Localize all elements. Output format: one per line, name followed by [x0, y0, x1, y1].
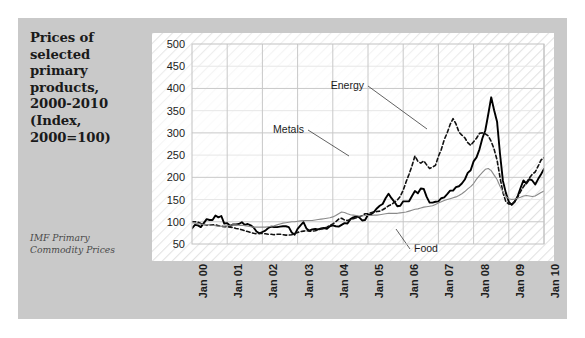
x-tick-label: Jan 03	[303, 264, 315, 298]
x-tick-label: Jan 00	[197, 264, 209, 298]
y-tick-label: 50	[173, 238, 185, 250]
y-tick-label: 100	[167, 216, 185, 228]
series-label-metals: Metals	[273, 123, 304, 135]
y-tick-label: 150	[167, 194, 185, 206]
y-tick-label: 200	[167, 171, 185, 183]
source-note: IMF Primary Commodity Prices	[30, 232, 155, 256]
x-tick-label: Jan 04	[338, 264, 350, 298]
x-axis-labels: Jan 00Jan 01Jan 02Jan 03Jan 04Jan 05Jan …	[152, 264, 554, 316]
plot-area: 50100150200250300350400450500 EnergyMeta…	[152, 33, 554, 261]
x-tick-label: Jan 05	[373, 264, 385, 298]
x-tick-label: Jan 08	[479, 264, 491, 298]
x-tick-label: Jan 10	[549, 264, 561, 298]
figure-root: Prices of selected primary products, 200…	[0, 0, 585, 338]
x-tick-label: Jan 09	[514, 264, 526, 298]
x-tick-label: Jan 01	[232, 264, 244, 298]
x-tick-label: Jan 06	[408, 264, 420, 298]
series-label-energy: Energy	[331, 79, 365, 91]
x-tick-label: Jan 07	[443, 264, 455, 298]
y-tick-label: 400	[167, 82, 185, 94]
y-tick-label: 450	[167, 60, 185, 72]
y-tick-label: 300	[167, 127, 185, 139]
y-tick-label: 500	[167, 38, 185, 50]
y-tick-label: 350	[167, 105, 185, 117]
caption-block: Prices of selected primary products, 200…	[30, 30, 145, 146]
x-tick-label: Jan 02	[267, 264, 279, 298]
y-tick-label: 250	[167, 149, 185, 161]
page-title: Prices of selected primary products, 200…	[30, 30, 145, 146]
line-chart-svg: 50100150200250300350400450500 EnergyMeta…	[152, 33, 554, 261]
